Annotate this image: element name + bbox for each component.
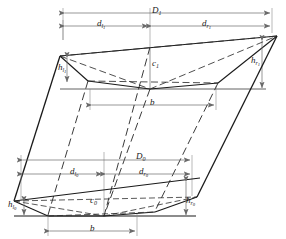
label-d-l1: dl1 — [97, 19, 105, 28]
label-b-lower: b — [90, 224, 95, 233]
label-h-l0: hl0 — [8, 200, 16, 209]
label-D0: D0 — [136, 152, 145, 161]
label-h-r1: hr1 — [251, 56, 260, 65]
upper-height-dimensions — [67, 41, 262, 88]
prism-long-edges-dashed — [48, 47, 218, 216]
diagram-canvas: D1 dl1 dr1 hl1 hr1 c1 b D0 dl0 dr0 hl0 h… — [0, 0, 286, 239]
label-c0: c0 — [90, 196, 97, 205]
label-h-r0: hr0 — [186, 196, 195, 205]
upper-extension-lines — [63, 8, 272, 47]
label-c1: c1 — [152, 59, 159, 68]
label-D1: D1 — [152, 6, 161, 15]
label-d-r0: dr0 — [139, 167, 148, 176]
diagram-linework — [0, 0, 286, 239]
label-b-upper: b — [150, 98, 155, 107]
lower-section-solid-edges — [14, 197, 197, 216]
label-d-r1: dr1 — [202, 19, 211, 28]
label-h-l1: hl1 — [58, 63, 66, 72]
label-d-l0: dl0 — [70, 167, 78, 176]
lower-extension-lines — [21, 152, 192, 216]
